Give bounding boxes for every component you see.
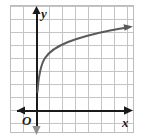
y-axis-label: y bbox=[39, 6, 47, 21]
graph-canvas: y x O bbox=[0, 0, 144, 138]
coordinate-graph-figure: y x O bbox=[0, 0, 144, 138]
origin-label: O bbox=[22, 113, 32, 128]
x-axis-label: x bbox=[121, 115, 129, 130]
